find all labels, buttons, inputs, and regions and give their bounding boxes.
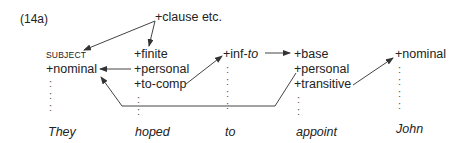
word-hoped: hoped <box>135 125 170 139</box>
feature-they-nominal: +nominal <box>46 62 97 76</box>
word-appoint: appoint <box>296 125 337 139</box>
feature-hoped-tocomp: +to-comp <box>134 77 186 91</box>
arrow-clause-to-subject <box>84 21 155 50</box>
dots-hoped: : : <box>137 93 140 117</box>
dots-they: : : : <box>49 77 52 113</box>
dots-to: : : : : <box>226 63 229 111</box>
arrow-clause-to-finite <box>149 21 155 46</box>
dots-appoint: : : <box>297 93 300 117</box>
word-to: to <box>225 125 235 139</box>
feature-appoint-personal: +personal <box>294 62 349 76</box>
dots-john: : : : : <box>398 63 401 111</box>
infto-prefix: +inf- <box>223 47 248 61</box>
example-label: (14a) <box>20 12 48 26</box>
subject-header: SUBJECT <box>46 48 86 62</box>
feature-john-nominal: +nominal <box>395 47 446 61</box>
feature-hoped-personal: +personal <box>134 62 189 76</box>
word-john: John <box>396 122 423 136</box>
arrow-transitive-to-john <box>353 58 393 85</box>
feature-hoped-finite: +finite <box>134 47 168 61</box>
root-node-clause: +clause etc. <box>155 10 222 24</box>
word-they: They <box>48 125 76 139</box>
arrow-appoint-personal-to-subject <box>101 73 296 106</box>
arrow-tocomp-to-infto <box>186 56 222 84</box>
feature-to-infto: +inf-to <box>223 47 258 61</box>
feature-appoint-base: +base <box>294 47 328 61</box>
infto-italic: to <box>248 47 258 61</box>
feature-appoint-transitive: +transitive <box>294 77 351 91</box>
